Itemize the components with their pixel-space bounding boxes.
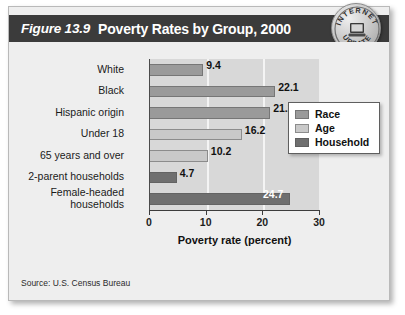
bar-value-label: 22.1	[278, 81, 298, 93]
x-tick-label: 20	[256, 216, 268, 228]
legend-label-household: Household	[315, 136, 369, 148]
legend-item-race[interactable]: Race	[295, 108, 373, 120]
bar-category-label: Under 18	[0, 128, 124, 140]
legend-item-household[interactable]: Household	[295, 136, 373, 148]
bar-value-label: 24.7	[263, 188, 283, 200]
legend-item-age[interactable]: Age	[295, 122, 373, 134]
x-axis-line	[149, 210, 320, 211]
bar-category-label: 65 years and over	[0, 150, 124, 162]
legend-label-race: Race	[315, 108, 340, 120]
bar-category-label: Female-headed households	[0, 187, 124, 210]
bar[interactable]	[150, 64, 203, 76]
figure-card: Figure 13.9 Poverty Rates by Group, 2000…	[8, 6, 390, 301]
x-tick-label: 10	[200, 216, 212, 228]
source-note: Source: U.S. Census Bureau	[21, 278, 130, 288]
legend-swatch-age	[295, 124, 309, 133]
bar-value-label: 16.2	[245, 124, 265, 136]
x-tick-label: 0	[146, 216, 152, 228]
chart-legend: Race Age Household	[288, 102, 380, 154]
bar-value-label: 10.2	[211, 145, 231, 157]
x-tick	[206, 210, 207, 215]
bar-row: Black22.1	[9, 81, 389, 103]
bar[interactable]	[150, 86, 275, 98]
x-tick-label: 30	[313, 216, 325, 228]
legend-swatch-household	[295, 138, 309, 147]
x-tick	[319, 210, 320, 215]
computer-icon	[349, 23, 366, 37]
figure-number: Figure 13.9	[21, 21, 90, 36]
bar[interactable]	[150, 129, 242, 141]
bar-row: White9.4	[9, 59, 389, 81]
bar-row: 2-parent households4.7	[9, 167, 389, 189]
bar-row: Female-headed households24.7	[9, 188, 389, 210]
bar-category-label: 2-parent households	[0, 171, 124, 183]
x-tick	[149, 210, 150, 215]
bar-category-label: Black	[0, 85, 124, 97]
chart-area: White9.4Black22.1Hispanic origin21.2Unde…	[9, 42, 389, 300]
bar-category-label: White	[0, 64, 124, 76]
bar[interactable]	[150, 172, 177, 184]
bar-value-label: 4.7	[180, 167, 195, 179]
bar-category-label: Hispanic origin	[0, 107, 124, 119]
bar[interactable]	[150, 150, 208, 162]
x-tick	[262, 210, 263, 215]
legend-swatch-race	[295, 110, 309, 119]
bar-value-label: 9.4	[206, 59, 221, 71]
x-axis-title: Poverty rate (percent)	[149, 234, 320, 246]
bar[interactable]	[150, 107, 270, 119]
legend-label-age: Age	[315, 122, 335, 134]
figure-title: Poverty Rates by Group, 2000	[98, 21, 291, 37]
